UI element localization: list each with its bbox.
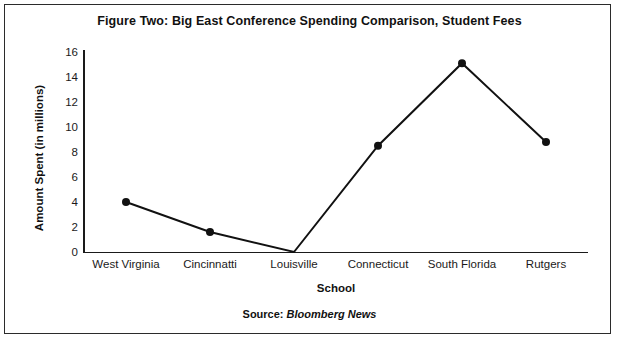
data-point-marker: [206, 228, 214, 236]
source-note: Source: Bloomberg News: [0, 308, 619, 320]
data-point-marker: [374, 142, 382, 150]
x-tick-label: South Florida: [428, 258, 496, 270]
x-axis-title: School: [84, 282, 588, 294]
data-point-marker: [122, 198, 130, 206]
source-prefix: Source:: [243, 308, 284, 320]
x-tick-label: Louisville: [270, 258, 317, 270]
x-tick-label: Cincinnatti: [183, 258, 237, 270]
data-point-marker: [542, 138, 550, 146]
x-tick-label: West Virginia: [92, 258, 159, 270]
source-name: Bloomberg News: [287, 308, 377, 320]
data-point-marker: [458, 59, 466, 67]
x-tick-label: Connecticut: [348, 258, 409, 270]
figure-container: Figure Two: Big East Conference Spending…: [0, 0, 619, 342]
series-polyline: [126, 63, 546, 252]
x-tick-label: Rutgers: [526, 258, 566, 270]
